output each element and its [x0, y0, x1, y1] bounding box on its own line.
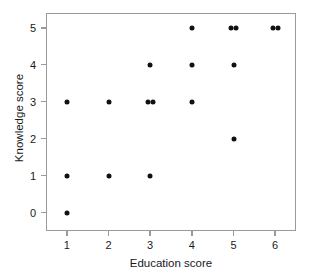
x-tick-mark: [233, 231, 235, 236]
data-point: [189, 25, 194, 30]
x-tick-mark: [66, 231, 68, 236]
y-axis-title: Knowledge score: [13, 48, 25, 188]
x-axis-title: Education score: [46, 257, 296, 269]
x-tick-mark: [274, 231, 276, 236]
data-point: [189, 62, 194, 67]
y-tick-mark: [41, 175, 46, 177]
x-tick-label: 2: [97, 239, 121, 251]
scatter-plot-figure: 012345 123456 Education score Knowledge …: [0, 0, 315, 277]
x-tick-mark: [191, 231, 193, 236]
data-point: [275, 25, 280, 30]
x-tick-label: 5: [222, 239, 246, 251]
data-point: [148, 173, 153, 178]
y-tick-label: 5: [14, 22, 36, 34]
data-point: [231, 136, 236, 141]
y-tick-mark: [41, 138, 46, 140]
y-tick-mark: [41, 27, 46, 29]
data-point: [64, 173, 69, 178]
data-point: [106, 99, 111, 104]
data-point: [64, 99, 69, 104]
data-point: [231, 62, 236, 67]
data-point: [150, 99, 155, 104]
data-point: [234, 25, 239, 30]
x-tick-label: 1: [55, 239, 79, 251]
y-tick-mark: [41, 212, 46, 214]
y-tick-mark: [41, 64, 46, 66]
y-tick-label: 0: [14, 207, 36, 219]
data-point: [64, 210, 69, 215]
y-tick-mark: [41, 101, 46, 103]
x-tick-label: 3: [138, 239, 162, 251]
data-point: [148, 62, 153, 67]
x-tick-label: 6: [263, 239, 287, 251]
data-point: [106, 173, 111, 178]
data-point: [189, 99, 194, 104]
x-tick-mark: [149, 231, 151, 236]
x-tick-label: 4: [180, 239, 204, 251]
plot-area-frame: [46, 13, 296, 231]
x-tick-mark: [108, 231, 110, 236]
